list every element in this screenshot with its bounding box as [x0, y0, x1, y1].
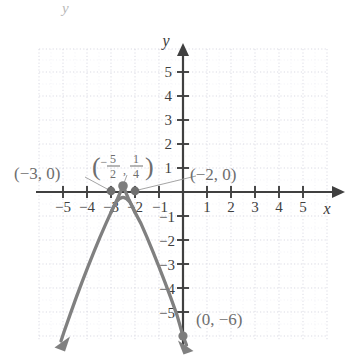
vertex-comma: ,	[123, 163, 126, 177]
stray-glyph: y	[60, 0, 69, 16]
y-tick-label: 3	[165, 112, 173, 128]
point-y-intercept	[178, 331, 187, 340]
x-tick-label: 4	[275, 199, 283, 215]
point-left-root	[107, 187, 116, 196]
y-tick-label: −1	[159, 209, 175, 225]
point-right-root	[131, 187, 140, 196]
x-tick-label: −5	[55, 199, 71, 215]
point-vertex	[118, 181, 128, 191]
x-tick-label: 2	[227, 199, 235, 215]
label-y-intercept: (0, −6)	[196, 310, 242, 329]
y-tick-label: 5	[165, 64, 173, 80]
x-tick-label: 1	[203, 199, 211, 215]
vertex-y-numerator: 1	[133, 152, 139, 166]
x-tick-label: −4	[79, 199, 95, 215]
vertex-x-denominator: 2	[110, 167, 116, 181]
x-tick-label: 5	[299, 199, 307, 215]
label-left-root: (−3, 0)	[14, 164, 60, 183]
y-tick-label: 4	[165, 88, 173, 104]
vertex-y-denominator: 4	[133, 167, 139, 181]
vertex-close-paren: )	[145, 152, 154, 181]
graph-figure: x y y −5 −4 −3 −2 −1 1 2 3 4 5 5 4 3 2 1…	[0, 0, 362, 355]
vertex-x-sign: −	[101, 155, 108, 169]
x-tick-label: 3	[251, 199, 259, 215]
y-tick-label: −2	[159, 233, 175, 249]
y-tick-label: 1	[165, 160, 173, 176]
label-right-root: (−2, 0)	[190, 165, 236, 184]
y-tick-label: 2	[165, 136, 173, 152]
y-axis-label: y	[160, 32, 170, 50]
vertex-open-paren: (	[92, 152, 101, 181]
x-axis-label: x	[322, 200, 330, 217]
vertex-x-numerator: 5	[110, 152, 116, 166]
